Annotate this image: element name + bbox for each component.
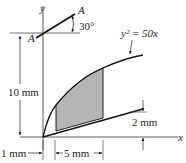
left-offset-label: 1 mm bbox=[1, 147, 27, 159]
y-axis-label: y bbox=[39, 2, 45, 14]
height-dim-label: 10 mm bbox=[8, 86, 39, 98]
section-label-top: A bbox=[77, 4, 85, 16]
gap-dim-label: 2 mm bbox=[132, 116, 158, 128]
diagram: A A 30° y x y² = 50x 10 mm 2 mm 1 mm 5 m… bbox=[0, 0, 186, 163]
x-axis-label: x bbox=[177, 131, 183, 143]
width-dim-label: 5 mm bbox=[64, 147, 90, 159]
angle-arc bbox=[72, 16, 74, 32]
curve-label: y² = 50x bbox=[120, 27, 158, 39]
curve-pointer bbox=[130, 40, 132, 54]
section-label-left: A bbox=[27, 32, 35, 44]
section-line bbox=[36, 14, 75, 38]
angle-label: 30° bbox=[79, 20, 94, 32]
